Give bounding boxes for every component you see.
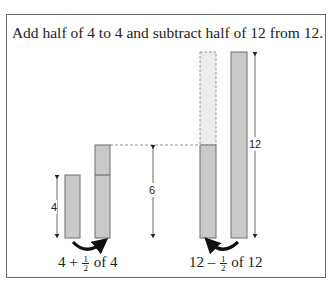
expression-subtract-suffix: of 12	[228, 254, 263, 270]
fraction-half: 12	[220, 255, 227, 272]
bar-12-minus-half	[200, 52, 216, 238]
expression-subtract: 12 – 12 of 12	[189, 254, 263, 272]
measure-label-4: 4	[51, 200, 57, 214]
bar-4	[65, 175, 80, 238]
fraction-half: 12	[82, 255, 89, 272]
bar-diagram	[0, 0, 335, 281]
measure-label-6: 6	[149, 183, 155, 197]
curved-arrow-subtract	[210, 242, 238, 249]
bar-12	[231, 52, 247, 238]
expression-add-prefix: 4 +	[58, 254, 81, 270]
expression-subtract-prefix: 12 –	[189, 254, 219, 270]
expression-add: 4 + 12 of 4	[58, 254, 117, 272]
expression-add-suffix: of 4	[90, 254, 118, 270]
measure-label-12: 12	[249, 137, 261, 151]
curved-arrow-add	[73, 242, 102, 249]
bar-6	[95, 145, 110, 238]
